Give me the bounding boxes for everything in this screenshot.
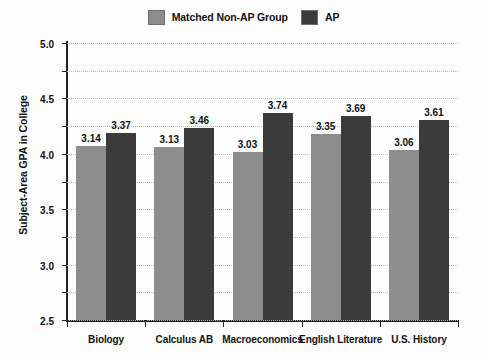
- x-axis-category-label: Calculus AB: [156, 334, 213, 345]
- x-tick-mark: [458, 320, 459, 327]
- legend-label-matched-non-ap-group: Matched Non-AP Group: [172, 11, 288, 23]
- x-axis-category-label: Macroeconomics: [222, 334, 302, 345]
- gridline: [67, 71, 458, 72]
- gridline: [67, 98, 458, 99]
- bar: 3.46: [184, 128, 214, 320]
- chart-legend: Matched Non-AP Group AP: [0, 6, 487, 28]
- x-tick-mark: [380, 320, 381, 327]
- legend-entry-matched-non-ap-group: Matched Non-AP Group: [148, 10, 288, 25]
- bar: 3.35: [311, 134, 341, 320]
- bar: 3.61: [419, 120, 449, 320]
- y-tick-label: 4.0: [40, 149, 54, 160]
- legend-entry-ap: AP: [301, 10, 339, 25]
- y-tick-label: 5.0: [40, 39, 54, 50]
- x-tick-mark: [67, 320, 68, 327]
- bar-chart-figure: Matched Non-AP Group AP Subject-Area GPA…: [0, 0, 487, 355]
- y-tick-label: 3.0: [40, 260, 54, 271]
- bar-value-label: 3.35: [316, 121, 335, 132]
- bar-value-label: 3.46: [190, 115, 209, 126]
- y-tick-mark: 2.0: [62, 209, 67, 210]
- bar: 3.74: [263, 113, 293, 320]
- bar: 3.37: [106, 133, 136, 320]
- x-axis-category-label: U.S. History: [391, 334, 446, 345]
- bar: 3.69: [341, 116, 371, 320]
- y-tick-mark: 3.5: [62, 126, 67, 127]
- y-axis-title: Subject-Area GPA in College: [8, 0, 38, 330]
- gridline: [67, 320, 458, 321]
- y-tick-mark: 5.0: [62, 43, 67, 44]
- y-tick-mark: 0.5: [62, 292, 67, 293]
- y-tick-label: 4.5: [40, 94, 54, 105]
- bar-value-label: 3.37: [111, 120, 130, 131]
- bar-value-label: 3.69: [346, 103, 365, 114]
- bar: 3.14: [76, 146, 106, 320]
- y-tick-mark: 1.5: [62, 237, 67, 238]
- x-axis-category-label: English Literature: [299, 334, 382, 345]
- bar: 3.06: [389, 150, 419, 320]
- legend-swatch-light: [148, 10, 165, 25]
- x-tick-mark: [223, 320, 224, 327]
- bar-value-label: 3.03: [238, 139, 257, 150]
- y-tick-mark: 3.0: [62, 154, 67, 155]
- bar: 3.03: [233, 152, 263, 320]
- plot-area: 0.00.51.01.52.02.53.03.54.04.55.0 3.143.…: [67, 43, 458, 320]
- bar-value-label: 3.14: [81, 133, 100, 144]
- x-axis-category-label: Biology: [88, 334, 124, 345]
- x-tick-mark: [145, 320, 146, 327]
- y-tick-label: 3.5: [40, 205, 54, 216]
- bar-value-label: 3.13: [160, 134, 179, 145]
- bar: 3.13: [154, 147, 184, 320]
- legend-swatch-dark: [301, 10, 318, 25]
- y-tick-mark: 4.0: [62, 98, 67, 99]
- y-tick-mark: 2.5: [62, 182, 67, 183]
- y-tick-label: 2.5: [40, 316, 54, 327]
- x-tick-mark: [302, 320, 303, 327]
- y-axis-title-text: Subject-Area GPA in College: [17, 95, 29, 235]
- y-tick-mark: 1.0: [62, 265, 67, 266]
- y-tick-mark: 4.5: [62, 71, 67, 72]
- bar-value-label: 3.61: [424, 107, 443, 118]
- gridline: [67, 43, 458, 44]
- legend-label-ap: AP: [325, 11, 339, 23]
- bar-value-label: 3.06: [394, 137, 413, 148]
- bar-value-label: 3.74: [268, 100, 287, 111]
